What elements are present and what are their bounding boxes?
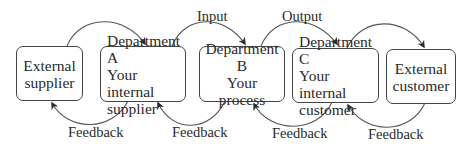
node-line: Your internal <box>107 66 181 100</box>
node-line: External <box>395 60 448 77</box>
node-external-customer: External customer <box>386 49 456 104</box>
feedback-label-3: Feedback <box>272 125 328 141</box>
feedback-arrow-4 <box>348 103 425 127</box>
node-line: supplier <box>107 100 157 117</box>
node-department-c: Department C Your internal customer <box>292 48 379 103</box>
node-line: Department C <box>299 33 374 67</box>
node-line: Department B <box>204 40 280 74</box>
node-department-a: Department A Your internal supplier <box>100 46 186 102</box>
node-line: customer <box>393 77 450 94</box>
node-line: Your internal <box>299 67 374 101</box>
node-line: Department A <box>107 32 181 66</box>
feedback-label-1: Feedback <box>68 124 124 140</box>
node-external-supplier: External supplier <box>16 46 83 101</box>
input-label: Input <box>197 8 228 24</box>
node-department-b: Department B Your process <box>199 46 285 102</box>
feedback-label-2: Feedback <box>172 124 228 140</box>
feedback-label-4: Feedback <box>368 126 424 142</box>
node-line: Your process <box>204 74 280 108</box>
node-line: supplier <box>25 74 75 91</box>
node-line: External <box>23 57 76 74</box>
output-label: Output <box>282 8 322 24</box>
node-line: customer <box>299 101 356 118</box>
